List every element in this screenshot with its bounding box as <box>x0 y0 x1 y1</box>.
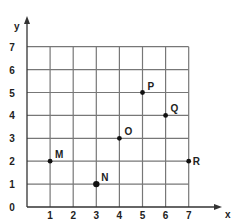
y-tick-label: 0 <box>9 202 15 213</box>
y-axis-arrow-icon <box>24 16 30 24</box>
y-tick-label: 5 <box>9 88 15 99</box>
x-tick-label: 7 <box>186 210 192 221</box>
y-tick-label: 6 <box>9 65 15 76</box>
point-label-q: Q <box>171 103 179 114</box>
point-label-n: N <box>101 172 108 183</box>
data-point-n <box>93 181 99 187</box>
point-label-o: O <box>124 126 132 137</box>
axes <box>24 16 222 210</box>
point-label-r: R <box>193 156 201 167</box>
x-axis-arrow-icon <box>214 204 222 210</box>
data-point-m <box>48 159 53 164</box>
data-points: MNOPQR <box>48 81 201 188</box>
x-tick-label: 2 <box>70 210 76 221</box>
x-axis-label: x <box>225 209 231 220</box>
x-tick-label: 5 <box>140 210 146 221</box>
data-point-p <box>140 90 145 95</box>
tick-labels: 123456701234567 <box>9 42 192 221</box>
x-tick-label: 3 <box>94 210 100 221</box>
y-tick-label: 2 <box>9 156 15 167</box>
point-label-p: P <box>148 81 155 92</box>
x-tick-label: 1 <box>47 210 53 221</box>
coordinate-grid-chart: 123456701234567 MNOPQR x y <box>0 0 244 224</box>
y-tick-label: 1 <box>9 179 15 190</box>
x-tick-label: 4 <box>117 210 123 221</box>
data-point-q <box>163 113 168 118</box>
y-tick-label: 7 <box>9 42 15 53</box>
y-axis-label: y <box>14 21 20 32</box>
y-tick-label: 3 <box>9 133 15 144</box>
x-tick-label: 6 <box>163 210 169 221</box>
y-tick-label: 4 <box>9 110 15 121</box>
data-point-r <box>186 159 191 164</box>
data-point-o <box>117 136 122 141</box>
point-label-m: M <box>55 149 63 160</box>
